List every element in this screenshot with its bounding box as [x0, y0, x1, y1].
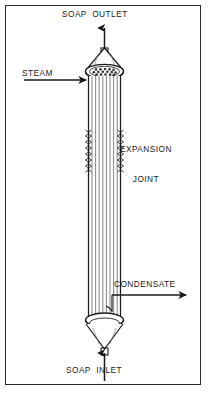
- label-steam: STEAM: [22, 68, 53, 78]
- label-expansion-joint-line2: JOINT: [120, 174, 172, 184]
- diagram-canvas: SOAP OUTLET STEAM EXPANSION JOINT CONDEN…: [0, 0, 209, 396]
- label-soap-inlet: SOAP INLET: [66, 365, 122, 375]
- label-expansion-joint: EXPANSION JOINT: [120, 124, 172, 204]
- label-condensate: CONDENSATE: [114, 279, 176, 289]
- label-soap-outlet: SOAP OUTLET: [62, 9, 128, 19]
- label-expansion-joint-line1: EXPANSION: [120, 144, 172, 154]
- equipment-drawing: [0, 0, 209, 396]
- bottom-cone-head: [86, 324, 123, 355]
